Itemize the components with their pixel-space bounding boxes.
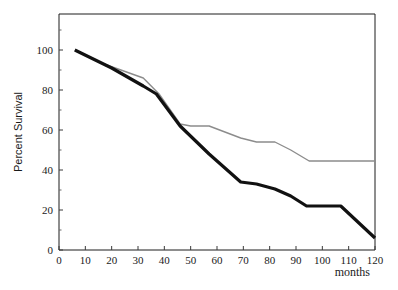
- x-tick-label: 40: [159, 254, 171, 266]
- x-tick-label: 70: [238, 254, 250, 266]
- x-tick-label: 90: [291, 254, 303, 266]
- survival-chart-figure: 0102030405060708090100110120 02040608010…: [0, 0, 398, 290]
- chart-canvas: 0102030405060708090100110120 02040608010…: [0, 0, 398, 290]
- x-tick-label: 10: [80, 254, 92, 266]
- y-tick-label: 20: [42, 204, 54, 216]
- x-tick-label: 60: [212, 254, 224, 266]
- x-tick-label: 100: [314, 254, 331, 266]
- y-tick-label: 80: [42, 84, 54, 96]
- y-tick-label: 40: [42, 164, 54, 176]
- x-tick-label: 20: [106, 254, 118, 266]
- x-tick-label: 30: [133, 254, 145, 266]
- x-tick-label: 80: [264, 254, 276, 266]
- x-tick-label: 0: [56, 254, 62, 266]
- y-tick-label: 100: [37, 44, 54, 56]
- y-tick-label: 60: [42, 124, 54, 136]
- y-axis-title: Percent Survival: [12, 92, 24, 172]
- x-axis-title: months: [335, 265, 371, 279]
- x-tick-label: 50: [185, 254, 197, 266]
- y-tick-label: 0: [48, 244, 54, 256]
